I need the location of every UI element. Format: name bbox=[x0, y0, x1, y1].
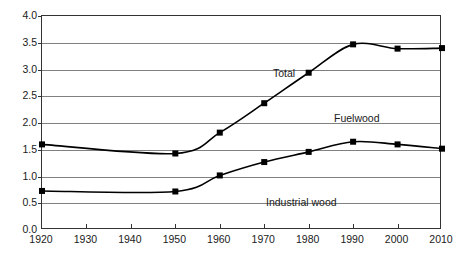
y-axis-tick-mark bbox=[38, 123, 42, 124]
x-axis-tick-mark bbox=[398, 224, 399, 228]
y-axis-tick-mark bbox=[38, 203, 42, 204]
series-label-total: Total bbox=[273, 68, 295, 79]
y-axis-tick-label: 3.0 bbox=[3, 63, 37, 74]
y-axis-tick-label: 1.0 bbox=[3, 170, 37, 181]
x-axis-tick-label: 1950 bbox=[163, 234, 186, 245]
x-axis-tick-label: 1940 bbox=[118, 234, 141, 245]
x-axis-labels: 1920193019401950196019701980199020002010 bbox=[41, 234, 441, 250]
plot-area: TotalFuelwoodIndustrial wood bbox=[41, 15, 441, 229]
data-point-marker bbox=[350, 41, 356, 47]
x-axis-tick-mark bbox=[131, 224, 132, 228]
data-point-marker bbox=[39, 188, 45, 194]
x-axis-tick-label: 1990 bbox=[340, 234, 363, 245]
x-axis-tick-label: 2000 bbox=[385, 234, 408, 245]
data-point-marker bbox=[172, 188, 178, 194]
data-point-marker bbox=[395, 141, 401, 147]
data-point-marker bbox=[306, 70, 312, 76]
x-axis-tick-label: 1980 bbox=[296, 234, 319, 245]
x-axis-tick-label: 2010 bbox=[429, 234, 452, 245]
data-point-marker bbox=[261, 100, 267, 106]
x-axis-tick-mark bbox=[264, 224, 265, 228]
x-axis-tick-mark bbox=[353, 224, 354, 228]
y-axis-tick-mark bbox=[38, 177, 42, 178]
series-fuelwood bbox=[39, 139, 445, 195]
x-axis-tick-label: 1930 bbox=[74, 234, 97, 245]
data-point-marker bbox=[306, 149, 312, 155]
y-axis-tick-label: 2.0 bbox=[3, 117, 37, 128]
y-axis-tick-mark bbox=[38, 43, 42, 44]
y-axis-tick-mark bbox=[38, 96, 42, 97]
chart-screenshot: 0.00.51.01.52.02.53.03.54.0 TotalFuelwoo… bbox=[0, 0, 469, 256]
series-lines bbox=[42, 16, 442, 230]
y-axis-tick-mark bbox=[38, 70, 42, 71]
x-axis-tick-mark bbox=[175, 224, 176, 228]
y-axis-tick-label: 0.5 bbox=[3, 197, 37, 208]
series-label-fuelwood: Fuelwood bbox=[334, 113, 380, 124]
y-axis-tick-mark bbox=[38, 16, 42, 17]
data-point-marker bbox=[261, 159, 267, 165]
x-axis-tick-mark bbox=[309, 224, 310, 228]
series-total bbox=[39, 41, 445, 156]
data-point-marker bbox=[350, 139, 356, 145]
y-axis-tick-label: 1.5 bbox=[3, 144, 37, 155]
data-point-marker bbox=[395, 46, 401, 52]
x-axis-tick-label: 1960 bbox=[207, 234, 230, 245]
series-label-industrial-wood: Industrial wood bbox=[266, 197, 337, 208]
x-axis-tick-label: 1970 bbox=[252, 234, 275, 245]
data-point-marker bbox=[39, 141, 45, 147]
x-axis-tick-mark bbox=[86, 224, 87, 228]
data-point-marker bbox=[439, 146, 445, 152]
data-point-marker bbox=[217, 130, 223, 136]
x-axis-tick-label: 1920 bbox=[29, 234, 52, 245]
y-axis-tick-label: 3.5 bbox=[3, 37, 37, 48]
series-line bbox=[42, 43, 442, 154]
data-point-marker bbox=[439, 45, 445, 51]
data-point-marker bbox=[172, 150, 178, 156]
y-axis-labels: 0.00.51.01.52.02.53.03.54.0 bbox=[0, 15, 37, 229]
data-point-marker bbox=[217, 172, 223, 178]
y-axis-tick-mark bbox=[38, 150, 42, 151]
x-axis-tick-mark bbox=[220, 224, 221, 228]
y-axis-tick-label: 2.5 bbox=[3, 90, 37, 101]
y-axis-tick-label: 4.0 bbox=[3, 10, 37, 21]
